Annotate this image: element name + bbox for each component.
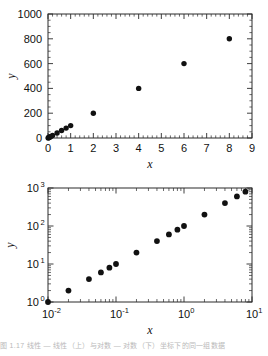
data-point: [66, 288, 72, 294]
y-tick-label: 400: [24, 82, 42, 94]
data-point: [45, 299, 51, 305]
y-tick-label-base: 10: [27, 258, 39, 270]
data-point: [181, 61, 186, 66]
x-axis-label: x: [146, 157, 153, 171]
axis-ticks: [48, 14, 252, 138]
x-tick-label: 7: [204, 142, 210, 154]
figure-container: 012345678902004006008001000xy 10-210-110…: [0, 0, 268, 356]
x-tick-label: 3: [113, 142, 119, 154]
y-tick-label-base: 10: [27, 220, 39, 232]
x-tick-label: 100: [178, 306, 194, 320]
x-tick-label: 9: [249, 142, 255, 154]
x-tick-label: 1: [68, 142, 74, 154]
x-tick-label-base: 10: [42, 308, 54, 320]
y-tick-label: 100: [27, 294, 45, 308]
y-tick-label-exp: 3: [41, 180, 45, 189]
y-tick-label: 0: [36, 132, 42, 144]
y-tick-label-exp: 2: [41, 218, 45, 227]
y-tick-label: 1000: [18, 8, 42, 20]
data-point: [166, 232, 172, 238]
data-point: [222, 200, 228, 206]
x-axis-label: x: [146, 323, 153, 337]
x-tick-label: 10-2: [42, 306, 61, 320]
y-tick-label: 103: [27, 180, 45, 194]
x-tick-label-exp: 0: [190, 306, 194, 315]
x-tick-label: 0: [45, 142, 51, 154]
y-tick-label: 600: [24, 58, 42, 70]
x-tick-label-base: 10: [110, 308, 122, 320]
chart-panel-loglog: 10-210-1100101100101102103xy: [0, 176, 268, 338]
data-point: [54, 130, 59, 135]
data-point: [234, 194, 240, 200]
data-point: [63, 125, 68, 130]
x-tick-label-exp: -2: [54, 306, 61, 315]
data-point: [107, 265, 113, 271]
data-point: [227, 36, 232, 41]
linear-scatter-plot: 012345678902004006008001000xy: [0, 0, 268, 172]
y-tick-label: 102: [27, 218, 45, 232]
chart-panel-linear: 012345678902004006008001000xy: [0, 0, 268, 172]
data-points: [45, 189, 248, 305]
y-tick-label-base: 10: [27, 296, 39, 308]
y-tick-label: 200: [24, 107, 42, 119]
y-axis-label: y: [4, 73, 18, 80]
data-point: [98, 270, 104, 276]
loglog-scatter-plot: 10-210-1100101100101102103xy: [0, 176, 268, 338]
x-tick-label-base: 10: [246, 308, 258, 320]
x-tick-label: 10-1: [110, 306, 129, 320]
x-tick-label-base: 10: [178, 308, 190, 320]
data-points: [46, 36, 233, 140]
data-point: [154, 238, 160, 244]
x-tick-label: 101: [246, 306, 262, 320]
data-point: [136, 86, 141, 91]
data-point: [59, 128, 64, 133]
data-point: [202, 212, 208, 218]
x-tick-label: 6: [181, 142, 187, 154]
y-tick-label: 101: [27, 256, 45, 270]
figure-caption: 图 1.17 线性 — 线性（上）与对数 — 对数（下）坐标下的同一组数据: [0, 340, 268, 356]
y-tick-label-exp: 0: [41, 294, 45, 303]
y-tick-label-exp: 1: [41, 256, 45, 265]
x-tick-label-exp: 1: [258, 306, 262, 315]
data-point: [181, 223, 187, 229]
y-tick-label-base: 10: [27, 182, 39, 194]
data-point: [50, 133, 55, 138]
x-tick-label: 2: [90, 142, 96, 154]
y-tick-label: 800: [24, 33, 42, 45]
x-tick-label: 8: [226, 142, 232, 154]
data-point: [175, 227, 181, 233]
data-point: [68, 123, 73, 128]
y-axis-label: y: [3, 242, 17, 249]
data-point: [86, 276, 92, 282]
x-tick-label: 5: [158, 142, 164, 154]
data-point: [243, 189, 249, 195]
x-tick-label: 4: [136, 142, 142, 154]
plot-frame: [48, 14, 252, 138]
data-point: [134, 250, 140, 256]
x-tick-label-exp: -1: [122, 306, 129, 315]
axis-ticks: [48, 188, 252, 302]
data-point: [91, 111, 96, 116]
plot-frame: [48, 188, 252, 302]
data-point: [113, 261, 119, 267]
